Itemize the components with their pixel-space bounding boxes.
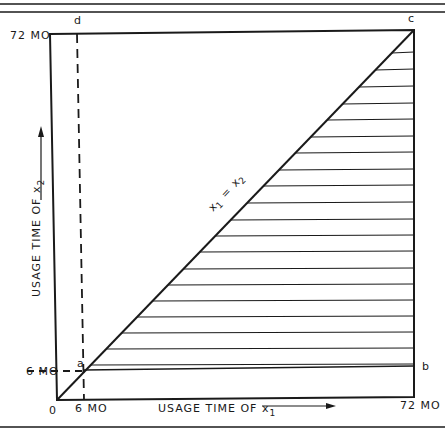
hatch-line [215, 235, 414, 236]
x-tick-72: 72 MO [400, 399, 441, 412]
x-tick-6: 6 MO [75, 402, 108, 415]
hatch-line [122, 332, 414, 333]
point-label-d: d [74, 14, 81, 27]
hatch-line [295, 152, 414, 153]
hatch-line [359, 86, 414, 87]
hatch-line [247, 202, 414, 203]
diagonal-line [57, 30, 414, 400]
y-axis-label-group: USAGE TIME OF x2 [30, 179, 46, 297]
y-tick-72: 72 MO [10, 29, 51, 42]
y-axis-label: USAGE TIME OF x2 [30, 179, 46, 297]
origin-label: 0 [49, 404, 57, 417]
hatch-line [200, 251, 414, 252]
dashed-line-x6 [77, 34, 84, 400]
point-label-c: c [408, 12, 414, 25]
hatch-line [311, 136, 414, 137]
hatch-line [137, 316, 414, 317]
hatch-line [91, 364, 414, 365]
point-label-a: a [77, 357, 84, 370]
line-a-b [84, 366, 414, 370]
hatch-line [231, 219, 414, 220]
y-tick-6: 6 MO [26, 365, 59, 378]
hatch-line [375, 69, 414, 70]
point-label-b: b [422, 360, 429, 373]
hatch-line [343, 103, 414, 104]
hatch-line [183, 268, 414, 269]
x-arrow-head-icon [326, 403, 336, 409]
hatch-line [153, 300, 414, 301]
hatch-line [168, 284, 414, 285]
hatch-line [106, 348, 414, 349]
hatch-line [392, 52, 414, 53]
hatch-line [279, 169, 414, 170]
x-axis-label: USAGE TIME OF x1 [158, 402, 276, 418]
shaded-region-hatching [91, 52, 414, 365]
hatch-line [327, 119, 414, 120]
usage-time-diagram: d c a b 72 MO 6 MO 0 6 MO 72 MO USAGE TI… [0, 0, 445, 432]
y-arrow-head-icon [38, 126, 44, 137]
hatch-line [263, 185, 414, 186]
